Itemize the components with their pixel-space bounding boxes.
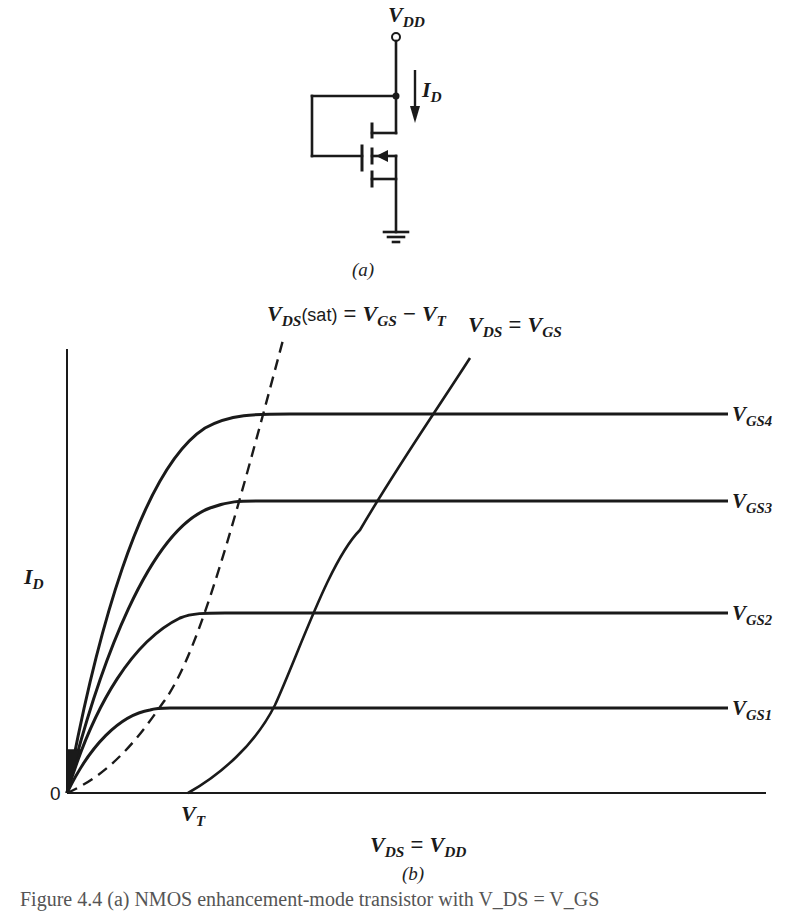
vds-eq-vgs-label: VDS = VGS [468,314,562,340]
vgs2-label: VGS2 [732,603,772,628]
id-current-label: ID [422,79,442,105]
curve-vgs2 [67,613,728,793]
current-arrow-icon [410,70,420,123]
junction-dot-icon [393,93,400,100]
vgs4-label: VGS4 [732,404,772,429]
curve-vgs1 [67,708,728,793]
caption-b: (b) [402,863,424,885]
origin-label: 0 [50,784,61,803]
y-axis-label: ID [24,566,44,592]
vgs1-label: VGS1 [732,698,772,723]
caption-a: (a) [352,259,374,281]
vgs3-label: VGS3 [732,491,772,516]
saturation-boundary-curve [67,340,283,793]
diode-connected-curve [188,358,470,793]
vdd-label: VDD [388,4,425,30]
curve-vgs3 [67,501,728,793]
x-axis-label: VDS = VDD [370,834,466,860]
body-arrow-icon [376,150,388,162]
figure-caption: Figure 4.4 (a) NMOS enhancement-mode tra… [20,888,599,911]
vds-sat-label: VDS(sat) = VGS − VT [267,303,446,329]
vt-label: VT [181,803,205,829]
